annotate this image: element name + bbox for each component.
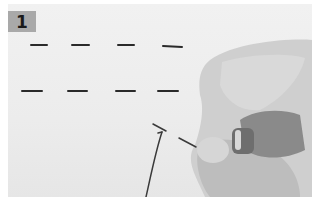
sewing-illustration	[8, 4, 312, 197]
hand	[191, 40, 312, 197]
step-number-badge: 1	[8, 11, 36, 32]
needle-and-thread	[146, 124, 196, 197]
instruction-photo: 1	[8, 4, 312, 197]
stitch-row-1	[31, 45, 182, 47]
